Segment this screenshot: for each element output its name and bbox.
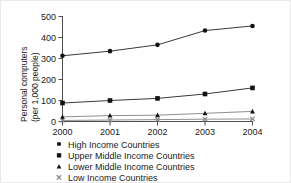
y-axis bbox=[59, 16, 63, 122]
chart-figure: 500 400 300 200 100 0 Personal computers… bbox=[0, 0, 291, 183]
data-point-high-income-countries-2003 bbox=[203, 28, 208, 33]
y-axis-title: Personal computers (per 1,000 people) bbox=[19, 46, 40, 122]
y-axis-title-line1: Personal computers bbox=[19, 46, 29, 122]
legend-circle-icon bbox=[57, 142, 61, 146]
x-tick-label-2001: 2001 bbox=[100, 127, 120, 137]
series-upper-middle-income-countries bbox=[60, 86, 255, 106]
legend-square-icon bbox=[57, 153, 61, 157]
data-point-upper-middle-income-countries-2001 bbox=[108, 98, 113, 103]
legend-cross-icon bbox=[57, 175, 61, 179]
data-point-high-income-countries-2001 bbox=[108, 49, 113, 54]
legend-label-lower-middle-income: Lower Middle Income Countries bbox=[68, 162, 195, 172]
legend-label-upper-middle-income: Upper Middle Income Countries bbox=[68, 151, 195, 161]
y-tick-label-0: 0 bbox=[51, 117, 56, 127]
data-point-high-income-countries-2002 bbox=[155, 43, 160, 48]
y-tick-labels: 500 400 300 200 100 0 bbox=[41, 12, 56, 127]
y-tick-label-500: 500 bbox=[41, 12, 56, 22]
series-line-high-income-countries bbox=[63, 26, 253, 56]
series-line-upper-middle-income-countries bbox=[63, 88, 253, 103]
data-point-upper-middle-income-countries-2004 bbox=[250, 86, 255, 91]
legend-label-low-income: Low Income Countries bbox=[68, 173, 158, 183]
data-point-upper-middle-income-countries-2002 bbox=[155, 96, 160, 101]
series-lower-middle-income-countries bbox=[60, 109, 255, 119]
legend-label-high-income: High Income Countries bbox=[68, 140, 160, 150]
y-tick-label-100: 100 bbox=[41, 96, 56, 106]
y-axis-title-line2: (per 1,000 people) bbox=[30, 52, 40, 122]
x-axis bbox=[63, 122, 254, 126]
y-tick-label-300: 300 bbox=[41, 54, 56, 64]
line-chart: 500 400 300 200 100 0 Personal computers… bbox=[0, 0, 291, 183]
series-layer bbox=[60, 24, 255, 123]
x-tick-label-2000: 2000 bbox=[52, 127, 72, 137]
y-tick-label-400: 400 bbox=[41, 33, 56, 43]
data-point-high-income-countries-2000 bbox=[60, 53, 65, 58]
x-tick-label-2002: 2002 bbox=[147, 127, 167, 137]
y-tick-label-200: 200 bbox=[41, 75, 56, 85]
chart-legend: High Income Countries Upper Middle Incom… bbox=[57, 140, 195, 183]
legend-triangle-icon bbox=[57, 164, 62, 168]
series-high-income-countries bbox=[60, 24, 255, 58]
x-tick-labels: 2000 2001 2002 2003 2004 bbox=[52, 127, 262, 137]
data-point-upper-middle-income-countries-2003 bbox=[203, 92, 208, 97]
data-point-high-income-countries-2004 bbox=[250, 24, 255, 29]
data-point-upper-middle-income-countries-2000 bbox=[60, 101, 65, 106]
x-tick-label-2004: 2004 bbox=[242, 127, 262, 137]
x-tick-label-2003: 2003 bbox=[195, 127, 215, 137]
